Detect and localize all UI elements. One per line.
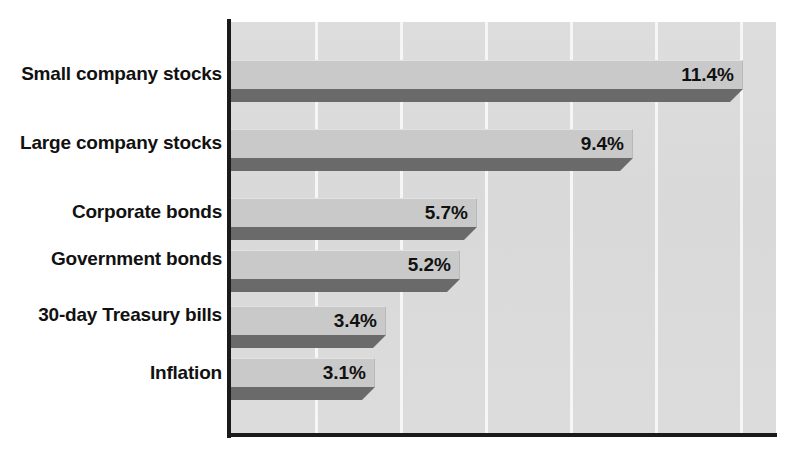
category-label-2: Corporate bonds xyxy=(0,202,222,221)
bar-chart: Small company stocks Large company stock… xyxy=(0,0,806,465)
bar-shadow-0 xyxy=(230,89,730,102)
bar-shadow-4 xyxy=(230,335,373,348)
bar-shadow-5 xyxy=(230,387,362,400)
bar-shadow-2 xyxy=(230,227,464,240)
plot-area: 11.4% 9.4% 5.7% 5.2% 3.4% xyxy=(230,22,776,435)
bar-shadow-1 xyxy=(230,158,620,171)
category-label-1: Large company stocks xyxy=(0,133,222,152)
bar-value-label-1: 9.4% xyxy=(230,129,633,158)
bar-value-label-3: 5.2% xyxy=(230,250,460,279)
category-label-0: Small company stocks xyxy=(0,64,222,83)
bar-value-label-2: 5.7% xyxy=(230,198,477,227)
category-label-column: Small company stocks Large company stock… xyxy=(0,0,222,465)
category-label-5: Inflation xyxy=(0,363,222,382)
bar-shadow-3 xyxy=(230,279,447,292)
x-axis-line xyxy=(227,433,777,437)
bar-value-label-5: 3.1% xyxy=(230,358,375,387)
bar-value-label-0: 11.4% xyxy=(230,60,743,89)
y-axis-line xyxy=(227,19,231,438)
category-label-4: 30-day Treasury bills xyxy=(0,305,222,324)
category-label-3: Government bonds xyxy=(0,249,222,268)
bar-value-label-4: 3.4% xyxy=(230,306,386,335)
